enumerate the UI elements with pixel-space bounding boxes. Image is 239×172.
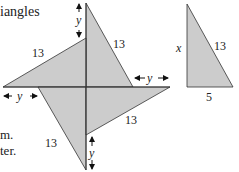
hypotenuse-label-top: 13 bbox=[113, 37, 125, 51]
triangle-right bbox=[86, 87, 170, 135]
hypotenuse-label-bottom: 13 bbox=[45, 136, 57, 150]
triangle-bottom bbox=[38, 87, 86, 170]
triangle-top bbox=[86, 3, 133, 87]
gap-arrow-right: y bbox=[135, 71, 168, 85]
reference-base-label: 5 bbox=[206, 90, 212, 104]
hypotenuse-label-right: 13 bbox=[125, 113, 137, 127]
reference-side-x-label: x bbox=[175, 41, 182, 55]
gap-arrow-top: y bbox=[75, 4, 82, 37]
reference-hypotenuse-label: 13 bbox=[214, 39, 226, 53]
hypotenuse-label-left: 13 bbox=[32, 46, 44, 60]
gap-arrow-left: y bbox=[4, 89, 37, 103]
reference-triangle bbox=[187, 4, 233, 87]
gap-label-left: y bbox=[16, 89, 23, 103]
gap-label-right: y bbox=[146, 71, 153, 85]
gap-arrow-bottom: y bbox=[88, 137, 95, 169]
triangle-left bbox=[3, 38, 86, 87]
gap-label-bottom: y bbox=[88, 146, 95, 160]
gap-label-top: y bbox=[75, 13, 82, 27]
pinwheel-figure: y y y y 13 13 13 13 x 13 5 bbox=[0, 0, 239, 172]
